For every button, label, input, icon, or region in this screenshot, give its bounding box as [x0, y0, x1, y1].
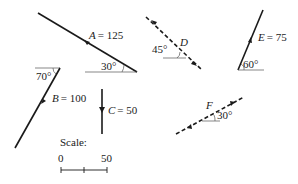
vector-c-label: C= 50 [108, 104, 138, 116]
vector-b-label: B= 100 [52, 92, 87, 104]
vector-e-angle: 60° [243, 58, 258, 70]
scale-end-label: 50 [101, 152, 113, 164]
vector-b-angle: 70° [36, 70, 51, 82]
vector-a-angle: 30° [101, 60, 116, 72]
vector-d: 45° D [146, 17, 202, 70]
vector-d-label: D [179, 36, 188, 48]
scale-title: Scale: [60, 136, 87, 148]
vector-d-angle: 45° [152, 43, 167, 55]
vector-a: A= 125 30° [38, 13, 137, 72]
angle-arc [53, 68, 56, 74]
angle-arc [177, 52, 180, 58]
vector-f-label: F [205, 99, 213, 111]
vector-a-label: A= 125 [88, 29, 124, 41]
force-diagram: A= 125 30° 70° B= 100 C= 50 45° D 60° E=… [0, 0, 298, 184]
vector-f-angle: 30° [217, 109, 232, 121]
scale-bar: Scale: 0 50 [58, 136, 113, 173]
vector-f: 30° F [176, 97, 244, 134]
angle-arc [214, 115, 215, 121]
vector-e-label: E= 75 [257, 31, 287, 43]
vector-e: 60° E= 75 [238, 10, 287, 70]
angle-arc [122, 65, 124, 72]
vector-c: C= 50 [99, 89, 138, 134]
arrowhead-icon [99, 107, 105, 113]
scale-start-label: 0 [58, 152, 64, 164]
